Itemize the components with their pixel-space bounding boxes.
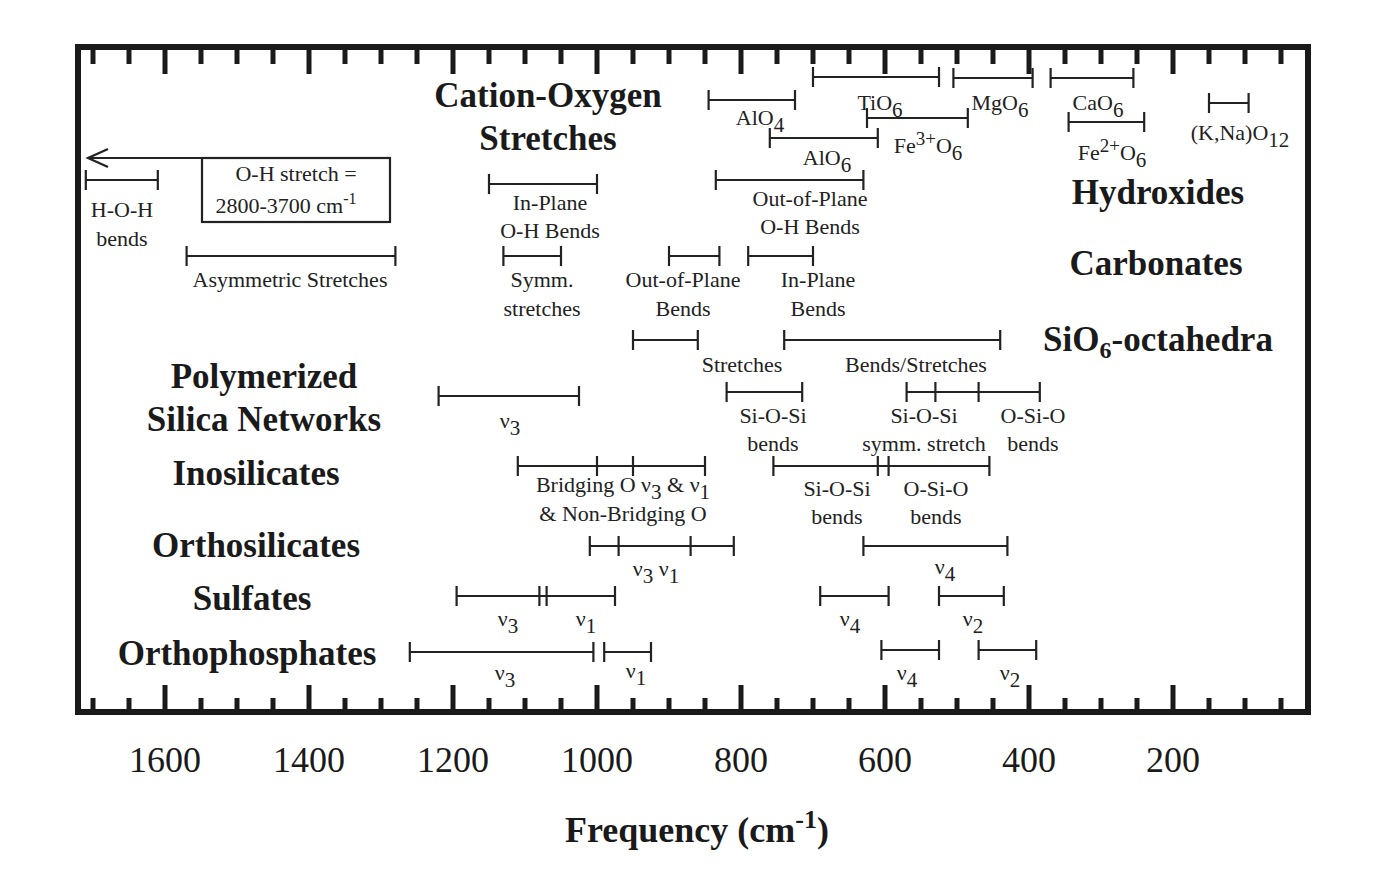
range-label: ν4​ [935, 554, 956, 586]
range-bar: Symm.stretches [503, 246, 580, 321]
range-label: & Non-Bridging O [539, 501, 706, 526]
range-label: symm. stretch [862, 431, 985, 456]
range-label: stretches [504, 296, 581, 321]
range-label: ν1​ [626, 658, 646, 690]
ir-frequency-range-diagram: 1600140012001000800600400200 Frequency (… [0, 0, 1374, 893]
range-label: (K,Na)O12​ [1191, 120, 1290, 152]
group-label: Sulfates [193, 579, 312, 618]
range-label: Si-O-Si [803, 476, 870, 501]
range-label: Bends [656, 296, 711, 321]
range-bar: TiO6​ [813, 67, 939, 122]
range-label: bends [96, 226, 147, 251]
range-label: CaO6​ [1073, 90, 1124, 122]
range-label: Bends [791, 296, 846, 321]
x-tick-label: 800 [714, 740, 768, 780]
range-label: ν2​ [963, 606, 983, 638]
range-label: Out-of-Plane [753, 186, 868, 211]
range-bar: ν2​ [939, 586, 1004, 638]
range-bar: MgO6​ [953, 68, 1032, 122]
oh-stretch-line-1: O-H stretch = [235, 161, 356, 186]
range-bar: Bends/Stretches [784, 330, 1000, 377]
range-label: ν4​ [840, 606, 861, 638]
range-label: ν1​ [576, 606, 596, 638]
range-bar: Fe3+​O6​ [867, 108, 968, 165]
range-bar: In-PlaneBends [748, 246, 855, 321]
range-label: Si-O-Si [890, 403, 957, 428]
group-label: Cation-Oxygen [434, 76, 662, 115]
range-label: Si-O-Si [739, 403, 806, 428]
range-bar: ν3​ [410, 642, 594, 692]
range-bar: Out-of-PlaneBends [626, 246, 741, 321]
x-tick-label: 1200 [417, 740, 489, 780]
range-bar: ν2​ [979, 640, 1037, 692]
range-bar: In-PlaneO-H Bends [489, 174, 600, 243]
range-label: bends [811, 504, 862, 529]
group-label: Inosilicates [172, 454, 339, 493]
range-label: O-H Bends [500, 218, 600, 243]
range-bar: ν3​ ν1​ [590, 536, 734, 588]
range-label: Fe3+​O6​ [894, 128, 963, 165]
range-label: ν3​ [498, 606, 518, 638]
range-bar: AlO4​ [709, 90, 795, 137]
range-bar: Out-of-PlaneO-H Bends [716, 170, 868, 239]
group-label: Polymerized [171, 357, 358, 396]
range-label: bends [1007, 431, 1058, 456]
range-label: MgO6​ [972, 90, 1029, 122]
range-bar: Si-O-Sibends [727, 382, 807, 456]
range-label: H-O-H [91, 197, 153, 222]
range-bar: O-Si-Obends [904, 476, 969, 529]
range-bar: CaO6​ [1051, 68, 1134, 122]
range-label: ν3​ [500, 408, 520, 440]
range-label: O-Si-O [904, 476, 969, 501]
group-label: Stretches [479, 119, 616, 158]
range-label: bends [910, 504, 961, 529]
range-label: bends [747, 431, 798, 456]
range-bar: ν3​ [439, 386, 579, 440]
x-tick-label: 200 [1146, 740, 1200, 780]
range-label: Symm. [511, 267, 574, 292]
range-bar: ν1​ [604, 642, 651, 690]
range-label: ν3​ ν1​ [633, 556, 679, 588]
range-label: AlO4​ [736, 105, 785, 137]
range-label: Stretches [702, 352, 783, 377]
range-bar: ν4​ [881, 640, 939, 692]
top-axis-ticks [93, 50, 1281, 74]
x-axis-title: Frequency (cm-1) [565, 805, 829, 850]
range-label: Bends/Stretches [845, 352, 987, 377]
group-label: Hydroxides [1072, 173, 1244, 212]
range-label: AlO6​ [803, 145, 851, 177]
oh-stretch-line-2: 2800-3700 cm-1 [215, 190, 356, 218]
x-tick-label: 1000 [561, 740, 633, 780]
x-axis-tick-labels: 1600140012001000800600400200 [129, 740, 1200, 780]
range-bar: ν4​ [863, 536, 1007, 586]
range-bar: Fe2+​O6​ [1069, 112, 1147, 172]
group-label: SiO6​-octahedra [1043, 320, 1273, 363]
range-label: ν3​ [495, 660, 515, 692]
range-bar: ν4​ [820, 586, 888, 638]
x-tick-label: 1400 [273, 740, 345, 780]
range-bar: (K,Na)O12​ [1191, 93, 1290, 152]
x-tick-label: 400 [1002, 740, 1056, 780]
range-label: O-Si-O [1001, 403, 1066, 428]
range-bar: ν3​ν1​ [457, 586, 615, 638]
range-bar: Bridging O ν3​ & ν1​& Non-Bridging O [518, 456, 710, 526]
range-label: Bridging O ν3​ & ν1​ [536, 472, 710, 504]
group-label: Orthosilicates [152, 526, 360, 565]
group-label: Silica Networks [147, 400, 381, 439]
range-label: ν2​ [1000, 660, 1020, 692]
x-tick-label: 600 [858, 740, 912, 780]
range-label: In-Plane [513, 190, 588, 215]
range-label: In-Plane [781, 267, 856, 292]
range-bar: H-O-Hbends [86, 170, 158, 251]
range-label: Out-of-Plane [626, 267, 741, 292]
group-label: Orthophosphates [118, 634, 377, 673]
range-bar: AlO6​ [770, 128, 878, 177]
range-label: Asymmetric Stretches [193, 267, 388, 292]
range-bar: O-Si-Obends [1001, 403, 1066, 456]
range-label: O-H Bends [760, 214, 860, 239]
range-bar: Stretches [633, 330, 782, 377]
range-label: Fe2+​O6​ [1078, 135, 1147, 172]
bottom-axis-ticks [93, 685, 1281, 709]
range-label: ν4​ [897, 660, 918, 692]
group-label: Carbonates [1069, 244, 1242, 283]
